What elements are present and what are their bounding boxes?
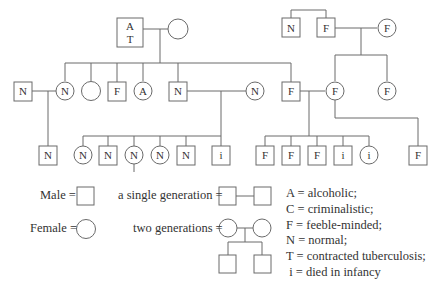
gen2-female-F: F xyxy=(326,82,344,100)
gen2-male-F: F xyxy=(282,82,300,101)
svg-text:N: N xyxy=(104,149,112,161)
gen1-female-blank xyxy=(168,19,188,39)
legend-single-generation-label: a single generation = xyxy=(118,188,223,203)
svg-text:N: N xyxy=(61,85,69,97)
legend-single-generation-symbol xyxy=(219,187,271,205)
svg-text:F: F xyxy=(262,149,268,161)
legend-two-generations-symbol xyxy=(219,219,271,273)
gen3-female-i: i xyxy=(360,146,378,164)
gen2-female-N: N xyxy=(56,82,74,100)
gen3-male-i: i xyxy=(212,146,230,165)
gen3-female-N: N xyxy=(125,146,143,164)
key-tuberculosis: T = contracted tuberculosis; xyxy=(286,249,426,265)
key-feeble-minded: F = feeble-minded; xyxy=(286,218,426,234)
svg-text:F: F xyxy=(384,85,390,97)
key-criminalistic: C = criminalistic; xyxy=(286,202,426,218)
gen3-male-F: F xyxy=(256,146,274,165)
legend-female-label: Female = xyxy=(30,221,77,236)
svg-text:i: i xyxy=(341,149,344,161)
gen2-male-N-spouse: N xyxy=(14,82,32,101)
svg-text:N: N xyxy=(44,149,52,161)
gen2-male-N: N xyxy=(169,82,187,101)
svg-text:F: F xyxy=(114,85,120,97)
svg-text:T: T xyxy=(127,33,134,45)
svg-text:N: N xyxy=(251,85,259,97)
svg-text:F: F xyxy=(288,149,294,161)
gen1-male-N: N xyxy=(282,18,300,37)
gen1-male-AT: A T xyxy=(117,18,143,47)
svg-text:F: F xyxy=(384,22,390,34)
legend-female-circle xyxy=(77,220,96,239)
gen3-male-N: N xyxy=(177,146,195,165)
legend-male-label: Male = xyxy=(40,188,76,203)
gen3-male-N: N xyxy=(99,146,117,165)
key-alcoholic: A = alcoholic; xyxy=(286,186,426,202)
svg-text:A: A xyxy=(139,85,147,97)
svg-text:N: N xyxy=(130,149,138,161)
gen3-female-N: N xyxy=(74,146,92,164)
gen1-female-F: F xyxy=(378,19,396,37)
gen3-male-F: F xyxy=(409,146,427,165)
gen3-male-i: i xyxy=(334,146,352,165)
key-died-in-infancy: i = died in infancy xyxy=(286,265,426,281)
gen2-female-N-spouse: N xyxy=(246,82,264,100)
gen3-male-F: F xyxy=(308,146,326,165)
gen3-female-N: N xyxy=(151,146,169,164)
svg-text:F: F xyxy=(415,149,421,161)
key-normal: N = normal; xyxy=(286,233,426,249)
gen2-female-A: A xyxy=(134,82,152,100)
svg-text:F: F xyxy=(288,85,294,97)
svg-text:N: N xyxy=(156,149,164,161)
svg-text:A: A xyxy=(126,20,134,32)
svg-text:N: N xyxy=(287,22,295,34)
gen3-male-N: N xyxy=(39,146,57,165)
svg-text:i: i xyxy=(367,149,370,161)
svg-text:i: i xyxy=(219,149,222,161)
legend-male-square xyxy=(77,187,94,205)
gen2-male-F: F xyxy=(108,82,126,101)
svg-text:N: N xyxy=(182,149,190,161)
svg-text:F: F xyxy=(323,22,329,34)
svg-text:F: F xyxy=(314,149,320,161)
svg-text:N: N xyxy=(79,149,87,161)
gen1-male-F: F xyxy=(317,18,335,37)
svg-text:N: N xyxy=(19,85,27,97)
legend-two-generations-label: two generations = xyxy=(133,221,223,236)
svg-text:F: F xyxy=(332,85,338,97)
gen3-male-F: F xyxy=(282,146,300,165)
gen2-female-F: F xyxy=(378,82,396,100)
abbreviation-key: A = alcoholic; C = criminalistic; F = fe… xyxy=(286,186,426,281)
gen2-female-blank xyxy=(82,82,101,101)
svg-text:N: N xyxy=(174,85,182,97)
